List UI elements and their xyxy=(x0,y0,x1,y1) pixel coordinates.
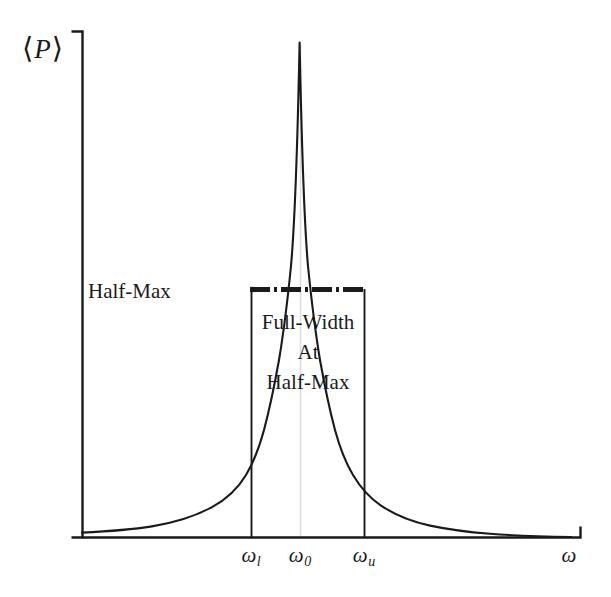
tick-label-omega-upper-subscript: u xyxy=(368,554,376,569)
y-axis-label-close-bracket: ⟩ xyxy=(52,32,63,64)
tick-label-omega-upper-symbol: ω xyxy=(353,543,368,567)
tick-label-omega-lower: ωl xyxy=(241,545,260,569)
fwhm-lorentzian-figure: ⟨P⟩ Half-Max Full-Width At Half-Max ωl ω… xyxy=(0,0,611,597)
fwhm-annotation-line-2: At xyxy=(252,342,364,363)
y-axis-label-variable: P xyxy=(33,34,52,64)
y-axis-label-open-bracket: ⟨ xyxy=(22,32,33,64)
half-max-annotation: Half-Max xyxy=(88,281,171,302)
y-axis-label: ⟨P⟩ xyxy=(22,34,63,63)
y-axis xyxy=(72,32,83,538)
fwhm-annotation: Full-Width At Half-Max xyxy=(252,312,364,393)
fwhm-annotation-line-1: Full-Width xyxy=(252,312,364,333)
tick-label-omega-upper: ωu xyxy=(353,545,375,569)
tick-label-omega-center-symbol: ω xyxy=(289,543,304,567)
x-axis-label: ω xyxy=(562,545,577,566)
tick-label-omega-center: ω0 xyxy=(289,545,311,569)
fwhm-annotation-line-3: Half-Max xyxy=(252,372,364,393)
tick-label-omega-center-subscript: 0 xyxy=(304,554,312,569)
tick-label-omega-lower-subscript: l xyxy=(256,554,260,569)
tick-label-omega-lower-symbol: ω xyxy=(241,543,256,567)
